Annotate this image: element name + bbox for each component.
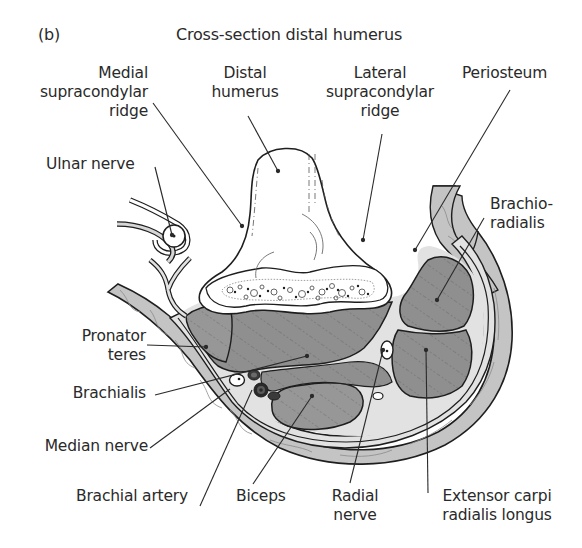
label-brachioradialis: Brachio- radialis [490,195,553,233]
panel-label: (b) [38,25,60,44]
small-vessel [373,393,383,400]
label-brachial-artery: Brachial artery [76,487,188,506]
label-pronator-teres: Pronator teres [82,327,146,365]
label-brachialis: Brachialis [73,384,146,403]
label-ulnar-nerve: Ulnar nerve [46,155,135,174]
label-radial-nerve: Radial nerve [320,487,390,525]
ulnar-nerve-group [117,200,188,262]
biceps-muscle [272,383,363,430]
label-distal-humerus: Distal humerus [207,64,283,102]
label-periosteum: Periosteum [462,64,547,83]
label-median-nerve: Median nerve [45,437,148,456]
label-lateral-supracondylar-ridge: Lateral supracondylar ridge [320,64,440,121]
figure-title: Cross-section distal humerus [176,25,402,44]
label-medial-supracondylar-ridge: Medial supracondylar ridge [40,64,148,121]
diagram-stage: (b) Cross-section distal humerus Medial … [0,0,582,548]
vein-2 [268,392,280,400]
ecrl-muscle [392,330,472,398]
label-extensor-carpi-radialis-longus: Extensor carpi radialis longus [432,487,562,525]
brachioradialis-muscle [400,257,473,331]
label-biceps: Biceps [236,487,286,506]
